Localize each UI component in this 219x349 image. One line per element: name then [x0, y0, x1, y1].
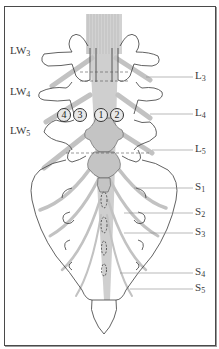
marker-2: 2	[110, 108, 124, 122]
label-s4: S4	[195, 266, 205, 279]
spine-diagram	[0, 0, 219, 349]
dural-sac	[85, 118, 124, 192]
label-s3: S3	[195, 226, 205, 239]
label-lw4: LW4	[10, 86, 30, 99]
marker-4: 4	[57, 108, 71, 122]
label-lw5: LW5	[10, 125, 30, 138]
label-s5: S5	[195, 282, 205, 295]
label-l4: L4	[195, 107, 206, 120]
label-lw3: LW3	[10, 45, 30, 58]
marker-1: 1	[94, 108, 108, 122]
marker-3: 3	[73, 108, 87, 122]
label-l5: L5	[195, 143, 206, 156]
label-s2: S2	[195, 206, 205, 219]
label-s1: S1	[195, 181, 205, 194]
label-l3: L3	[195, 70, 206, 83]
